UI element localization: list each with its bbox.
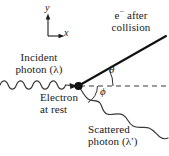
x-axis-label: x (64, 28, 68, 38)
incident-photon-label: Incident photon (λ) (6, 52, 72, 75)
electron-at-rest-dot (74, 82, 82, 90)
x-axis-arrow (48, 34, 65, 39)
incident-photon-label-line1: Incident (6, 52, 72, 64)
electron-at-rest-label: Electron at rest (40, 92, 100, 115)
y-axis-arrow (46, 14, 51, 37)
y-axis-label: y (45, 3, 49, 13)
theta-angle-label: θ (109, 64, 114, 75)
electron-at-rest-label-line2: at rest (40, 104, 100, 116)
electron-after-collision-label-line1: e− after (100, 10, 162, 22)
electron-at-rest-label-line1: Electron (40, 92, 100, 104)
electron-ray (79, 36, 166, 86)
electron-after-word: after (124, 9, 148, 21)
scattered-photon-label-line2: photon (λ′) (88, 136, 166, 148)
scattered-photon-label: Scattered photon (λ′) (88, 124, 166, 147)
electron-after-collision-label-line2: collision (100, 22, 162, 34)
phi-angle-label: ϕ (100, 86, 106, 97)
incident-photon-label-line2: photon (λ) (6, 64, 72, 76)
compton-scattering-figure: y x Incident photon (λ) Electron at rest… (0, 0, 169, 156)
scattered-photon-label-line1: Scattered (88, 124, 166, 136)
electron-after-collision-label: e− after collision (100, 10, 162, 33)
incident-photon-wave (0, 81, 78, 89)
